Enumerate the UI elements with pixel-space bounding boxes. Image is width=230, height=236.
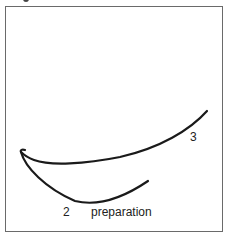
curve-upper xyxy=(21,111,207,164)
label-curve-3: 3 xyxy=(190,131,197,143)
caption-preparation: preparation xyxy=(91,206,152,218)
label-curve-2: 2 xyxy=(63,206,70,218)
curve-diagram xyxy=(0,0,230,236)
curve-lower xyxy=(21,152,148,203)
